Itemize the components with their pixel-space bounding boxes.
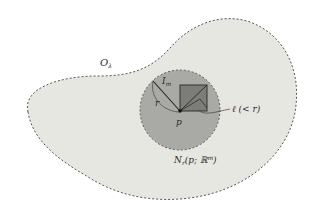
point-p: [178, 109, 182, 113]
diagram-canvas: Oλ Im r p ℓ (< r) Nr(p; ℝm): [0, 0, 318, 217]
point-label: p: [176, 117, 182, 127]
side-length-label: ℓ (< r): [232, 104, 261, 114]
open-set-label: Oλ: [100, 57, 112, 69]
radius-label: r: [155, 98, 160, 108]
